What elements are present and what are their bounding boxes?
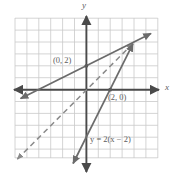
label-point-x-intercept: (2, 0)	[108, 92, 126, 102]
label-axis-y: y	[82, 0, 86, 10]
graph-canvas	[0, 0, 175, 176]
label-point-y-intercept: (0, 2)	[53, 55, 71, 65]
steep-line	[73, 44, 133, 164]
label-equation: y = 2(x − 2)	[90, 134, 131, 144]
graph-figure: (0, 2) (2, 0) y = 2(x − 2) x y	[0, 0, 175, 176]
label-axis-x: x	[165, 82, 169, 92]
marker-point-0-2	[85, 64, 89, 68]
